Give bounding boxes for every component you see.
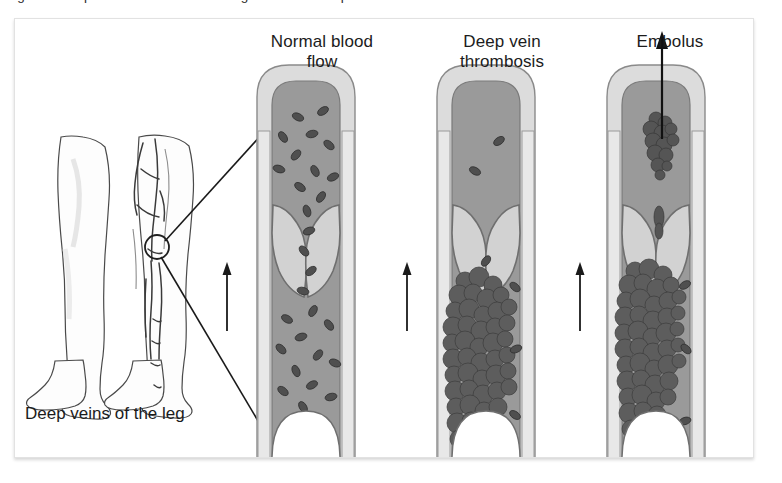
figure-panel: Normal blood flow Deep vein thrombosis E… <box>14 18 754 458</box>
label-normal-blood-flow: Normal blood flow <box>247 32 397 72</box>
leg-deep-veins <box>105 135 194 418</box>
vessel-embolus <box>607 31 705 458</box>
label-deep-veins-of-the-leg: Deep veins of the leg <box>25 404 255 424</box>
label-normal-line1: Normal blood <box>247 32 397 52</box>
flow-arrow-3 <box>576 262 585 331</box>
label-dvt-line2: thrombosis <box>427 52 577 72</box>
figure-illustration <box>15 19 754 458</box>
label-normal-line2: flow <box>247 52 397 72</box>
label-embolus: Embolus <box>595 32 745 52</box>
label-deep-vein-thrombosis: Deep vein thrombosis <box>427 32 577 72</box>
leg-outline-anterior <box>27 136 111 419</box>
label-dvt-line1: Deep vein <box>427 32 577 52</box>
flow-arrow-1 <box>223 262 232 331</box>
figure-caption: Figure 1 Deep vein thrombosis in the leg… <box>0 0 782 4</box>
vessel-normal-blood-flow <box>257 65 355 458</box>
flow-arrow-2 <box>403 262 412 331</box>
embolus-trailing-fragment <box>654 206 664 239</box>
vessel-deep-vein-thrombosis <box>437 65 535 458</box>
